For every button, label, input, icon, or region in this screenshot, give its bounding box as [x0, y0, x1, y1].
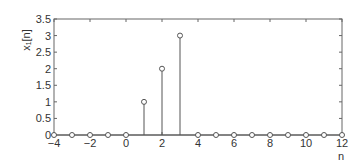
stem-point — [160, 66, 165, 135]
x-tick-label: 10 — [300, 137, 312, 149]
tick-labels: −4−202468101200.511.522.533.5 — [36, 13, 348, 149]
stem-plot-figure: −4−202468101200.511.522.533.5 n x₁[n] — [0, 0, 362, 165]
y-axis-label: x₁[n] — [20, 29, 32, 50]
stem-point — [70, 133, 75, 138]
plot-canvas: −4−202468101200.511.522.533.5 n x₁[n] — [0, 0, 362, 165]
x-tick-label: 4 — [195, 137, 201, 149]
x-tick-label: 0 — [123, 137, 129, 149]
stem-point — [106, 133, 111, 138]
stem-point — [142, 99, 147, 135]
y-tick-label: 3.5 — [36, 13, 51, 25]
x-axis-label: n — [338, 150, 344, 162]
x-tick-label: 8 — [267, 137, 273, 149]
x-tick-label: 2 — [159, 137, 165, 149]
x-tick-label: −2 — [84, 137, 97, 149]
stem-point — [286, 133, 291, 138]
y-tick-label: 0 — [45, 129, 51, 141]
stem-point — [178, 33, 183, 135]
y-tick-label: 3 — [45, 30, 51, 42]
stem-series — [52, 33, 345, 137]
x-tick-label: 12 — [336, 137, 348, 149]
y-tick-label: 2 — [45, 63, 51, 75]
stem-point — [250, 133, 255, 138]
y-tick-label: 0.5 — [36, 112, 51, 124]
y-tick-label: 2.5 — [36, 46, 51, 58]
y-tick-label: 1 — [45, 96, 51, 108]
stem-point — [322, 133, 327, 138]
axes-box — [54, 19, 342, 135]
x-tick-label: 6 — [231, 137, 237, 149]
y-tick-label: 1.5 — [36, 79, 51, 91]
stem-point — [214, 133, 219, 138]
